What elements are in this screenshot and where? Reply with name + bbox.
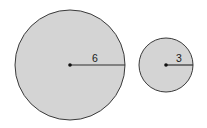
small-circle-radius-label: 3 xyxy=(176,52,182,64)
small-circle-center-dot xyxy=(164,63,168,67)
circles-diagram: 6 3 xyxy=(0,0,207,128)
large-circle-center-dot xyxy=(68,63,72,67)
small-circle-group: 3 xyxy=(139,38,193,92)
large-circle-group: 6 xyxy=(15,10,125,120)
large-circle-radius-label: 6 xyxy=(92,52,98,64)
